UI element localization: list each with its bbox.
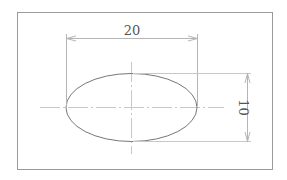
drawing-frame (18, 13, 273, 170)
height-dimension-label: 10 (236, 99, 251, 116)
width-dimension-label: 20 (124, 23, 141, 38)
drawing-canvas: 20 10 (0, 0, 287, 180)
